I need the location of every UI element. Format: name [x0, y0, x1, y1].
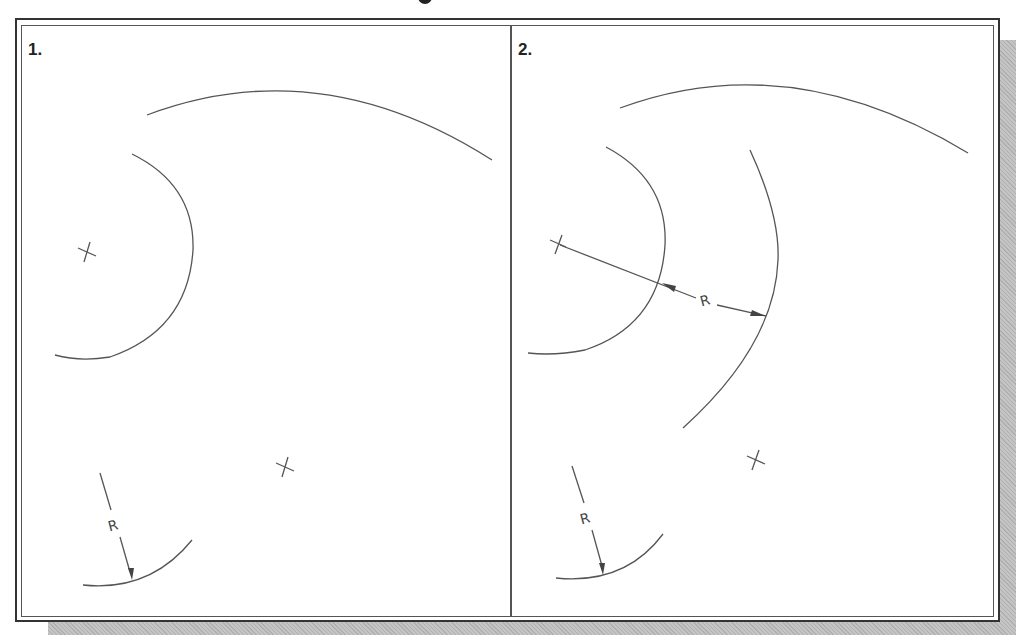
- panel-1-bottom-arc: [83, 540, 192, 586]
- panel-2-arrowhead-outer-icon: [750, 310, 766, 316]
- panel-1-radius-label: R: [106, 516, 120, 534]
- panel-1-radius-leader-bottom: [120, 537, 130, 572]
- panel-2-center-cross-right-icon: [747, 450, 765, 470]
- panel-1-top-arc: [147, 91, 492, 160]
- panel-2-radius-arrowhead-icon: [599, 563, 605, 575]
- panel-2-drawing: R R: [528, 85, 968, 579]
- drawing-canvas: R R R: [0, 0, 1031, 644]
- panel-2-top-arc: [620, 85, 968, 153]
- panel-2-radius-leader-bottom: [592, 530, 602, 566]
- panel-2-radius-leader-top: [572, 466, 584, 503]
- panel-2-bottom-arc: [556, 534, 663, 579]
- panel-1-drawing: R: [55, 91, 492, 586]
- panel-2-radial-line: [560, 245, 696, 298]
- panel-1-radius-leader-top: [100, 473, 111, 510]
- panel-1-center-cross-right-icon: [276, 457, 294, 477]
- panel-2-arrowhead-inner-icon: [662, 283, 676, 292]
- panel-2-lower-radius-label: R: [578, 509, 592, 527]
- panel-1-radius-arrowhead-icon: [128, 568, 134, 580]
- panel-2-left-arc: [528, 147, 665, 354]
- panel-2-outer-arc: [683, 150, 778, 428]
- panel-2-radius-label: R: [698, 291, 712, 309]
- panel-1-left-arc: [55, 154, 193, 359]
- panel-2-center-cross-left-icon: [550, 235, 566, 254]
- panel-1-center-cross-left-icon: [78, 242, 96, 262]
